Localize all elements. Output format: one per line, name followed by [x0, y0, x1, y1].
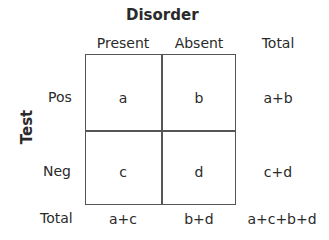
- row-label-total: Total: [40, 210, 73, 226]
- cell-b-plus-d: b+d: [161, 211, 237, 227]
- cell-grand-total: a+c+b+d: [236, 211, 328, 227]
- cell-c-plus-d: c+d: [240, 164, 316, 180]
- grid-divider-horizontal: [86, 130, 235, 132]
- column-label-present: Present: [85, 35, 161, 51]
- column-header-disorder: Disorder: [126, 6, 199, 24]
- row-label-pos: Pos: [48, 89, 72, 105]
- table-grid: [85, 54, 236, 205]
- cell-d: d: [161, 164, 237, 180]
- cell-c: c: [85, 164, 161, 180]
- column-label-absent: Absent: [161, 35, 237, 51]
- row-label-neg: Neg: [43, 163, 71, 179]
- cell-a-plus-c: a+c: [85, 211, 161, 227]
- cell-a-plus-b: a+b: [240, 90, 316, 106]
- cell-a: a: [85, 90, 161, 106]
- column-label-total: Total: [240, 35, 316, 51]
- row-header-test: Test: [18, 110, 36, 145]
- cell-b: b: [161, 90, 237, 106]
